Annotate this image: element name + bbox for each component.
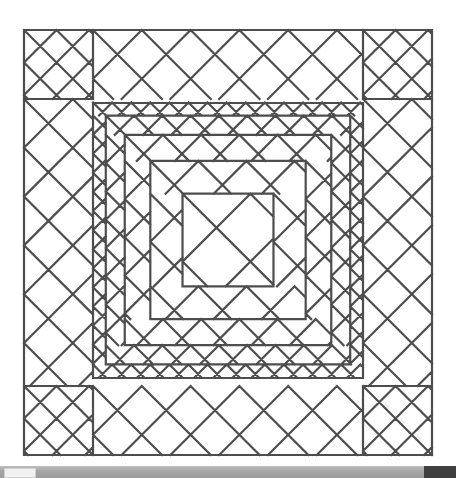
- quilt-block-figure: [0, 0, 456, 460]
- scrollbar-corner: [424, 466, 456, 478]
- scrollbar-thumb[interactable]: [4, 468, 36, 478]
- quilt-diagram-canvas: [0, 0, 456, 460]
- horizontal-scrollbar[interactable]: [0, 466, 456, 478]
- scrollbar-track[interactable]: [0, 466, 424, 478]
- page-root: [0, 0, 456, 478]
